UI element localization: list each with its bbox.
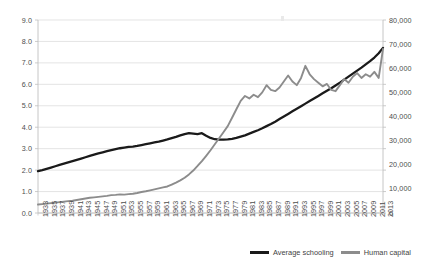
y-right-tick-label: 30,000 — [389, 136, 433, 145]
x-tick-label: 1997 — [317, 200, 326, 216]
x-tick-label: 2003 — [343, 200, 352, 216]
y-right-tick-label: 20,000 — [389, 160, 433, 169]
legend-swatch-icon-average-schooling — [250, 251, 269, 254]
x-tick-label: 1961 — [162, 200, 171, 216]
x-tick-label: 1987 — [274, 200, 283, 216]
legend-label-average-schooling: Average schooling — [273, 248, 334, 257]
y-left-tick-label: 0.0 — [2, 209, 32, 218]
y-right-tick-label: 40,000 — [389, 112, 433, 121]
series-path-group — [38, 48, 383, 205]
series-line-average-schooling — [38, 48, 383, 171]
chart-container: 0.01.02.03.04.05.06.07.08.09.0 010,00020… — [0, 0, 436, 266]
y-left-tick-label: 2.0 — [2, 166, 32, 175]
x-tick-label: 1933 — [41, 200, 50, 216]
chart-plot-area — [0, 0, 436, 266]
y-left-tick-label: 4.0 — [2, 123, 32, 132]
axis-line-group — [35, 20, 386, 213]
chart-legend: Average schooling Human capital — [250, 248, 411, 257]
x-tick-label: 1991 — [291, 200, 300, 216]
series-line-human-capital — [38, 49, 383, 205]
y-left-tick-label: 6.0 — [2, 80, 32, 89]
x-tick-label: 1949 — [110, 200, 119, 216]
stray-mark-artifact — [281, 16, 284, 21]
y-left-tick-label: 8.0 — [2, 37, 32, 46]
y-left-tick-label: 7.0 — [2, 58, 32, 67]
x-tick-label: 1977 — [231, 200, 240, 216]
legend-swatch-icon-human-capital — [341, 251, 360, 254]
y-right-tick-label: 80,000 — [389, 16, 433, 25]
y-right-tick-label: 70,000 — [389, 40, 433, 49]
y-right-tick-label: 10,000 — [389, 184, 433, 193]
gridline-group — [38, 20, 383, 213]
x-tick-label: 2009 — [369, 200, 378, 216]
legend-label-human-capital: Human capital — [364, 248, 411, 257]
y-right-tick-label: 0 — [389, 209, 433, 218]
x-tick-label: 1955 — [136, 200, 145, 216]
y-left-tick-label: 9.0 — [2, 16, 32, 25]
y-right-tick-label: 50,000 — [389, 88, 433, 97]
y-left-tick-label: 5.0 — [2, 101, 32, 110]
x-tick-label: 2013 — [386, 200, 395, 216]
legend-item-average-schooling[interactable]: Average schooling — [250, 248, 334, 257]
x-tick-label: 1993 — [300, 200, 309, 216]
x-tick-label: 1945 — [93, 200, 102, 216]
y-right-tick-label: 60,000 — [389, 64, 433, 73]
x-tick-label: 1959 — [153, 200, 162, 216]
x-tick-label: 1981 — [248, 200, 257, 216]
x-tick-label: 1975 — [222, 200, 231, 216]
x-tick-label: 1943 — [84, 200, 93, 216]
legend-item-human-capital[interactable]: Human capital — [341, 248, 411, 257]
x-tick-label: 1965 — [179, 200, 188, 216]
y-left-tick-label: 3.0 — [2, 144, 32, 153]
y-left-tick-label: 1.0 — [2, 187, 32, 196]
x-tick-label: 1971 — [205, 200, 214, 216]
x-tick-label: 1939 — [67, 200, 76, 216]
x-tick-label: 2007 — [360, 200, 369, 216]
